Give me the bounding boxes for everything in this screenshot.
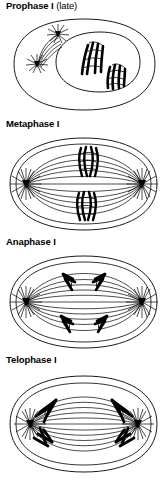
panel-prophase-1: Prophase I (late) [0,0,167,120]
panel-label-telophase-1: Telophase I [0,354,167,366]
panel-label-prophase-1: Prophase I (late) [0,0,167,12]
chromosome-cluster-left [34,400,56,446]
chromosome-tetrad-1 [82,42,103,74]
phase-name: Telophase I [6,354,56,365]
chromosome-tetrad-2 [108,64,125,89]
spindle-fibers [26,274,142,331]
panel-label-metaphase-1: Metaphase I [0,118,167,130]
anaphase-1-cell-diagram [0,248,167,356]
chromosome-upper-right [93,274,105,290]
phase-name: Anaphase I [6,236,56,247]
chromosome-cluster-right [112,400,134,446]
nuclear-envelope [56,32,140,92]
panel-anaphase-1: Anaphase I [0,236,167,356]
prophase-1-cell-diagram [0,12,167,120]
panel-telophase-1: Telophase I [0,354,167,482]
telophase-1-cell-diagram [0,366,167,482]
phase-name: Metaphase I [6,118,59,129]
panel-metaphase-1: Metaphase I [0,118,167,238]
chromosome-upper-left [63,274,75,290]
metaphase-1-cell-diagram [0,130,167,238]
panel-label-anaphase-1: Anaphase I [0,236,167,248]
phase-qualifier: (late) [56,0,77,11]
chromosome-tetrad-lower [77,192,96,220]
phase-name: Prophase I [6,0,54,11]
chromosome-tetrad-upper [79,147,98,176]
